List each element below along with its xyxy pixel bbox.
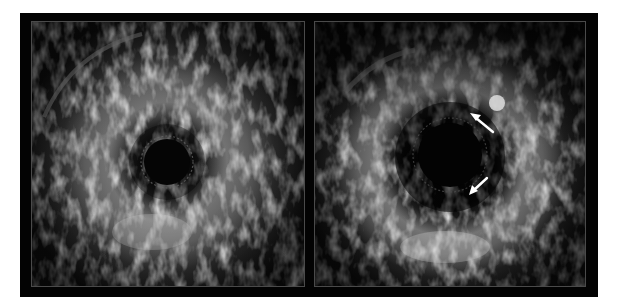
ivus-panel-left: IVUS cross-section (left) [32, 22, 304, 286]
ivus-panel-right: IVUS cross-section (right) [315, 22, 585, 286]
figure-frame: IVUS cross-section (left) [20, 13, 598, 297]
lumen [418, 123, 482, 187]
lumen [144, 139, 190, 185]
bright-spot [489, 95, 505, 111]
ivus-image-right [315, 22, 585, 286]
ivus-image-left [32, 22, 304, 286]
